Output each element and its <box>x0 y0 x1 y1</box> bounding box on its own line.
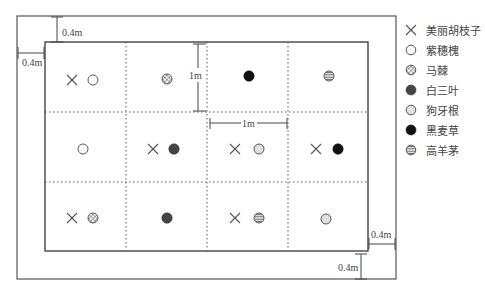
cell-r3-c2 <box>162 213 172 223</box>
open-circle-icon <box>88 75 98 85</box>
dark-gray-circle-icon <box>405 84 417 96</box>
black-circle-icon <box>333 144 343 154</box>
cell-r1-c1 <box>67 75 98 85</box>
cell-r1-c4 <box>324 71 334 81</box>
cross-icon <box>230 144 240 154</box>
cell-r2-c2 <box>148 144 179 154</box>
open-circle-icon <box>78 144 88 154</box>
legend-label: 马棘 <box>426 62 448 78</box>
dotted-circle-icon <box>405 104 417 116</box>
crosshatch-circle-icon <box>162 74 172 84</box>
label-top-margin: 0.4m <box>62 27 83 38</box>
cross-icon <box>230 213 240 223</box>
dotted-circle-icon <box>321 214 331 224</box>
cross-icon <box>311 144 321 154</box>
crosshatch-circle-icon <box>88 213 98 223</box>
cross-icon <box>67 213 77 223</box>
dark-gray-circle-icon <box>169 144 179 154</box>
cross-icon <box>67 75 77 85</box>
legend-item-zisuihuai: 紫穗槐 <box>405 42 459 58</box>
legend-label: 狗牙根 <box>426 102 459 118</box>
legend-item-heimaicao: 黑麦草 <box>405 122 459 138</box>
label-cell-width: 1m <box>242 118 255 129</box>
cell-r1-c2 <box>162 74 172 84</box>
striped-circle-icon <box>324 71 334 81</box>
label-left-margin: 0.4m <box>22 57 43 68</box>
dark-gray-circle-icon <box>162 213 172 223</box>
legend-item-maji: 马棘 <box>405 62 448 78</box>
legend-item-baisanye: 白三叶 <box>405 82 459 98</box>
open-circle-icon <box>405 44 417 56</box>
legend-label: 白三叶 <box>426 82 459 98</box>
cross-icon <box>148 144 158 154</box>
black-circle-icon <box>405 124 417 136</box>
cell-r3-c4 <box>321 214 331 224</box>
legend-item-gouyagen: 狗牙根 <box>405 102 459 118</box>
cell-r3-c1 <box>67 213 98 223</box>
crosshatch-circle-icon <box>405 64 417 76</box>
cell-r2-c3 <box>230 144 264 154</box>
striped-circle-icon <box>254 213 264 223</box>
legend-item-gaoyangmao: 高羊茅 <box>405 142 459 158</box>
legend-item-meili-huzhizi: 美丽胡枝子 <box>405 22 481 38</box>
label-right-margin: 0.4m <box>371 229 392 240</box>
legend-label: 黑麦草 <box>426 122 459 138</box>
dotted-circle-icon <box>254 144 264 154</box>
cell-r1-c3 <box>244 71 254 81</box>
cell-r3-c3 <box>230 213 264 223</box>
cell-r2-c1 <box>78 144 88 154</box>
cross-icon <box>405 24 417 36</box>
legend-label: 美丽胡枝子 <box>426 22 481 38</box>
legend-label: 紫穗槐 <box>426 42 459 58</box>
striped-circle-icon <box>405 144 417 156</box>
black-circle-icon <box>244 71 254 81</box>
label-bottom-margin: 0.4m <box>338 262 359 273</box>
label-cell-height: 1m <box>189 70 202 81</box>
cell-r2-c4 <box>311 144 343 154</box>
legend-label: 高羊茅 <box>426 142 459 158</box>
